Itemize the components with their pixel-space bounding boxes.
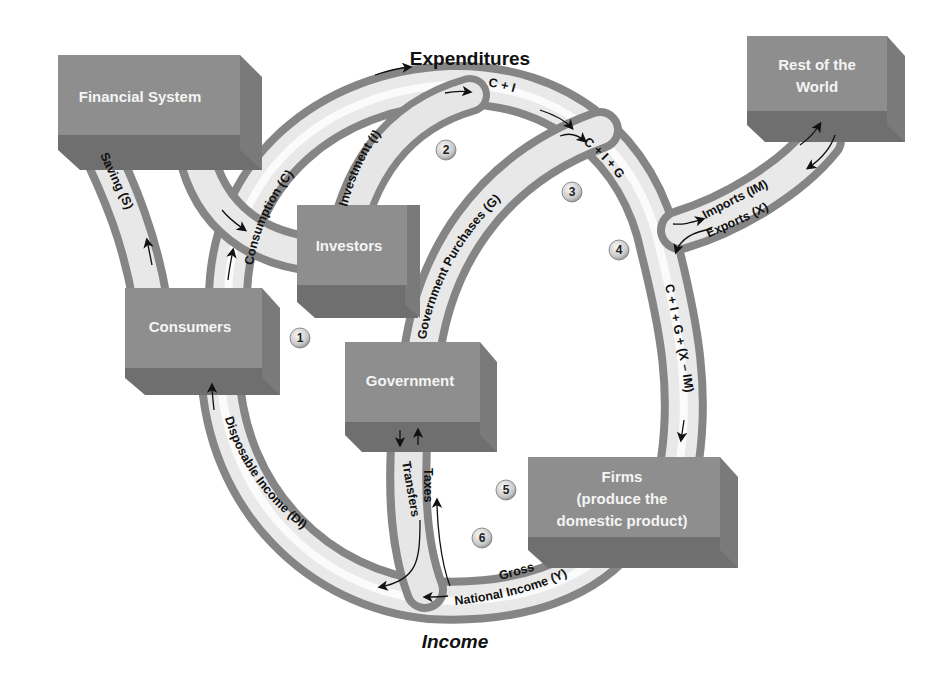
government-label: Government <box>366 372 454 389</box>
firms-label-line1: Firms <box>602 468 643 485</box>
rest-of-world-label-line1: Rest of the <box>778 56 856 73</box>
taxes-label: Taxes <box>421 468 435 503</box>
income-title: Income <box>422 631 489 652</box>
svg-text:4: 4 <box>616 243 623 257</box>
box-financial-system: Financial System <box>58 55 262 170</box>
box-government: Government <box>345 342 497 452</box>
investors-label: Investors <box>316 237 383 254</box>
box-firms: Firms (produce the domestic product) <box>528 457 738 568</box>
box-consumers: Consumers <box>125 288 280 395</box>
svg-text:1: 1 <box>297 331 304 345</box>
circular-flow-diagram: Financial System Rest of the World Inves… <box>0 0 944 680</box>
expenditures-title: Expenditures <box>410 48 530 69</box>
financial-system-label: Financial System <box>79 88 202 105</box>
svg-text:6: 6 <box>479 531 486 545</box>
marker-2: 2 <box>436 140 456 160</box>
marker-6: 6 <box>472 528 492 548</box>
consumers-label: Consumers <box>149 318 232 335</box>
firms-label-line2: (produce the <box>577 490 668 507</box>
svg-text:2: 2 <box>443 143 450 157</box>
marker-3: 3 <box>562 182 582 202</box>
box-rest-of-world: Rest of the World <box>747 36 905 142</box>
marker-4: 4 <box>609 240 629 260</box>
marker-1: 1 <box>290 328 310 348</box>
rest-of-world-label-line2: World <box>796 78 838 95</box>
box-investors: Investors <box>297 205 420 318</box>
firms-label-line3: domestic product) <box>557 512 688 529</box>
marker-5: 5 <box>496 480 516 500</box>
svg-text:3: 3 <box>569 185 576 199</box>
svg-text:5: 5 <box>503 483 510 497</box>
